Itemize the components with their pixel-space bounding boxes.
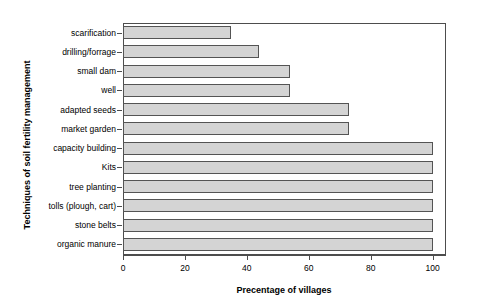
y-tick-mark <box>117 129 122 130</box>
bar-row <box>123 177 445 196</box>
bar-row <box>123 196 445 215</box>
bar-row <box>123 235 445 254</box>
bar <box>123 65 290 78</box>
y-tick-label: scarification <box>71 28 116 38</box>
y-tick-mark <box>117 206 122 207</box>
y-tick-label: stone belts <box>75 220 116 230</box>
x-tick-mark <box>433 255 434 260</box>
y-tick-mark <box>117 148 122 149</box>
bar-row <box>123 139 445 158</box>
bar <box>123 238 433 251</box>
y-tick-label: small dam <box>77 66 116 76</box>
bar <box>123 26 231 39</box>
y-tick-mark <box>117 167 122 168</box>
y-tick-mark <box>117 187 122 188</box>
bar-row <box>123 216 445 235</box>
bar-row <box>123 81 445 100</box>
y-tick-mark <box>117 52 122 53</box>
y-tick-mark <box>117 71 122 72</box>
y-tick-label: tolls (plough, cart) <box>48 201 116 211</box>
y-tick-label: tree planting <box>69 182 116 192</box>
bar <box>123 45 259 58</box>
bar-row <box>123 119 445 138</box>
bar <box>123 219 433 232</box>
x-tick-mark <box>247 255 248 260</box>
x-tick-mark <box>371 255 372 260</box>
x-tick-label: 100 <box>418 263 448 273</box>
x-axis-line <box>123 255 446 256</box>
bar <box>123 142 433 155</box>
x-tick-label: 80 <box>356 263 386 273</box>
bar <box>123 161 433 174</box>
y-tick-label: adapted seeds <box>60 105 116 115</box>
bar-row <box>123 42 445 61</box>
y-tick-label: market garden <box>61 124 116 134</box>
x-axis-title: Precentage of villages <box>123 285 445 295</box>
y-tick-label: organic manure <box>57 239 116 249</box>
x-tick-label: 60 <box>294 263 324 273</box>
y-tick-label: drilling/forrage <box>62 47 116 57</box>
bar <box>123 180 433 193</box>
y-tick-label: capacity building <box>53 143 116 153</box>
bar-row <box>123 62 445 81</box>
bar-row <box>123 158 445 177</box>
bar <box>123 199 433 212</box>
y-tick-mark <box>117 225 122 226</box>
y-tick-mark <box>117 244 122 245</box>
y-axis-tick-labels: scarificationdrilling/forragesmall damwe… <box>0 23 116 254</box>
bar <box>123 122 349 135</box>
y-tick-label: Kits <box>102 162 116 172</box>
x-tick-mark <box>185 255 186 260</box>
y-tick-label: well <box>101 85 116 95</box>
y-tick-mark <box>117 33 122 34</box>
x-tick-label: 40 <box>232 263 262 273</box>
y-tick-mark <box>117 90 122 91</box>
bar <box>123 103 349 116</box>
x-tick-mark <box>123 255 124 260</box>
bar-row <box>123 100 445 119</box>
bar <box>123 84 290 97</box>
x-tick-label: 0 <box>108 263 138 273</box>
x-tick-mark <box>309 255 310 260</box>
x-tick-label: 20 <box>170 263 200 273</box>
bars-layer <box>123 23 445 254</box>
bar-chart: Techniques of soil fertility management … <box>0 0 483 305</box>
bar-row <box>123 23 445 42</box>
y-tick-mark <box>117 110 122 111</box>
